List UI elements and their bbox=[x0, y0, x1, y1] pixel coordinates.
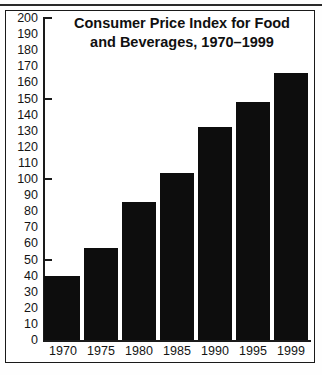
y-axis-tick-label: 40 bbox=[4, 270, 38, 282]
y-axis-tick-label: 160 bbox=[4, 76, 38, 88]
y-axis-tick-label: 150 bbox=[4, 93, 38, 105]
y-axis-tick-label: 170 bbox=[4, 60, 38, 72]
y-axis-tick-label: 190 bbox=[4, 28, 38, 40]
x-axis-tick-label: 1980 bbox=[120, 344, 158, 358]
y-axis-major-tick-mark bbox=[44, 98, 52, 100]
top-divider-rule bbox=[0, 4, 322, 6]
y-axis-tick-label: 110 bbox=[4, 157, 38, 169]
y-axis-tick-label: 0 bbox=[4, 334, 38, 346]
y-axis-tick-label: 10 bbox=[4, 318, 38, 330]
y-axis-tick-label: 50 bbox=[4, 254, 38, 266]
x-axis-tick-label: 1985 bbox=[158, 344, 196, 358]
bar bbox=[272, 73, 310, 340]
y-axis-major-tick-mark bbox=[44, 17, 52, 19]
y-axis-tick-label: 80 bbox=[4, 205, 38, 217]
y-axis-tick-label: 60 bbox=[4, 237, 38, 249]
y-axis-tick-label: 140 bbox=[4, 109, 38, 121]
bar bbox=[120, 202, 158, 340]
y-axis-tick-label: 30 bbox=[4, 286, 38, 298]
chart-page: Consumer Price Index for Food and Bevera… bbox=[0, 0, 322, 375]
y-axis-tick-label: 200 bbox=[4, 12, 38, 24]
y-axis-major-tick-mark bbox=[44, 259, 52, 261]
x-axis-tick-label: 1990 bbox=[196, 344, 234, 358]
bar bbox=[82, 248, 120, 340]
y-axis-tick-labels: 0102030405060708090100110120130140150160… bbox=[0, 0, 38, 375]
y-axis-tick-label: 90 bbox=[4, 189, 38, 201]
y-axis-tick-label: 70 bbox=[4, 221, 38, 233]
x-axis-line bbox=[43, 340, 311, 342]
y-axis-major-tick-mark bbox=[44, 178, 52, 180]
x-axis-tick-label: 1970 bbox=[44, 344, 82, 358]
x-axis-tick-label: 1975 bbox=[82, 344, 120, 358]
x-axis-tick-labels: 1970197519801985199019951999 bbox=[44, 344, 310, 364]
bar bbox=[196, 127, 234, 340]
bar bbox=[44, 276, 82, 340]
y-axis-tick-label: 130 bbox=[4, 125, 38, 137]
y-axis-tick-label: 20 bbox=[4, 302, 38, 314]
bar bbox=[234, 102, 272, 340]
y-axis-tick-label: 100 bbox=[4, 173, 38, 185]
bar-series bbox=[44, 18, 310, 340]
bar bbox=[158, 173, 196, 340]
x-axis-tick-label: 1995 bbox=[234, 344, 272, 358]
x-axis-tick-label: 1999 bbox=[272, 344, 310, 358]
y-axis-tick-label: 180 bbox=[4, 44, 38, 56]
y-axis-tick-label: 120 bbox=[4, 141, 38, 153]
